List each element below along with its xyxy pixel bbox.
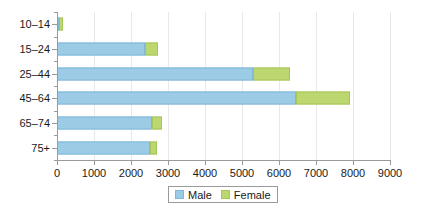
legend-item-male[interactable]: Male [175,189,212,201]
stacked-bar[interactable] [57,92,350,105]
bar-segment-female[interactable] [253,67,290,80]
legend-item-female[interactable]: Female [221,189,271,201]
stacked-bar[interactable] [57,116,162,129]
bar-segment-female[interactable] [296,92,350,105]
x-axis-label: 5000 [230,167,254,179]
bar-segment-male[interactable] [57,67,253,80]
x-tick [131,160,132,165]
x-axis-label: 8000 [341,167,365,179]
x-axis-label: 6000 [267,167,291,179]
bar-segment-female[interactable] [59,18,63,31]
stacked-bar[interactable] [57,42,158,55]
x-axis-label: 4000 [193,167,217,179]
y-axis-label: 45–64 [2,92,50,104]
y-tick-minor [54,37,57,38]
bar-row [57,61,390,86]
legend-swatch-female-icon [221,190,230,199]
y-tick [52,24,57,25]
bar-segment-male[interactable] [57,92,296,105]
y-tick [52,123,57,124]
x-tick [279,160,280,165]
bar-segment-female[interactable] [150,141,157,154]
x-tick [390,160,391,165]
bar-segment-female[interactable] [145,42,158,55]
y-tick-minor [54,61,57,62]
x-axis-label: 9000 [378,167,402,179]
y-axis-label: 75+ [2,142,50,154]
y-tick-minor [54,111,57,112]
y-axis-label: 25–44 [2,68,50,80]
x-tick [57,160,58,165]
x-tick [242,160,243,165]
chart-legend[interactable]: Male Female [168,186,278,203]
y-tick-minor [54,12,57,13]
bar-row [57,111,390,136]
plot-area [57,12,390,160]
bar-segment-male[interactable] [57,116,152,129]
bar-segment-male[interactable] [57,42,145,55]
y-axis-label: 15–24 [2,43,50,55]
y-tick-minor [54,135,57,136]
bar-row [57,135,390,160]
x-tick [316,160,317,165]
legend-label-male: Male [188,189,212,201]
x-tick [168,160,169,165]
x-axis-label: 3000 [156,167,180,179]
y-tick-minor [54,86,57,87]
bar-segment-male[interactable] [57,141,150,154]
x-tick [94,160,95,165]
bar-chart: 10–1415–2425–4445–6465–7475+ 01000200030… [0,0,424,216]
gridline-9000 [390,12,391,160]
x-axis-line [57,160,391,161]
bars-host [57,12,390,160]
y-tick [52,49,57,50]
bar-row [57,37,390,62]
stacked-bar[interactable] [57,141,157,154]
bar-segment-female[interactable] [152,116,162,129]
x-tick [353,160,354,165]
stacked-bar[interactable] [57,67,290,80]
y-axis-label: 10–14 [2,18,50,30]
x-axis-label: 7000 [304,167,328,179]
y-tick [52,98,57,99]
legend-swatch-male-icon [175,190,184,199]
x-tick [205,160,206,165]
legend-label-female: Female [234,189,271,201]
y-axis-line [57,12,58,161]
y-tick [52,74,57,75]
bar-row [57,86,390,111]
y-axis-labels: 10–1415–2425–4445–6465–7475+ [0,12,50,160]
y-tick [52,148,57,149]
bar-row [57,12,390,37]
x-axis-label: 1000 [82,167,106,179]
x-axis-label: 2000 [119,167,143,179]
x-axis-label: 0 [54,167,60,179]
y-axis-label: 65–74 [2,117,50,129]
